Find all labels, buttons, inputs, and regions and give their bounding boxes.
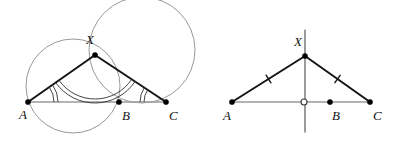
point-label-A: A [18, 107, 27, 122]
point-label-A: A [222, 108, 231, 123]
point-label-C: C [169, 108, 178, 123]
point-label-B: B [122, 108, 130, 123]
point-label-X: X [85, 32, 95, 47]
geometry-figure: A B C X A B C X [0, 0, 394, 152]
figure-canvas: A B C X A B C X [0, 0, 394, 152]
point-label-C: C [373, 108, 382, 123]
point-label-B: B [332, 108, 340, 123]
point-label-X: X [293, 34, 303, 49]
